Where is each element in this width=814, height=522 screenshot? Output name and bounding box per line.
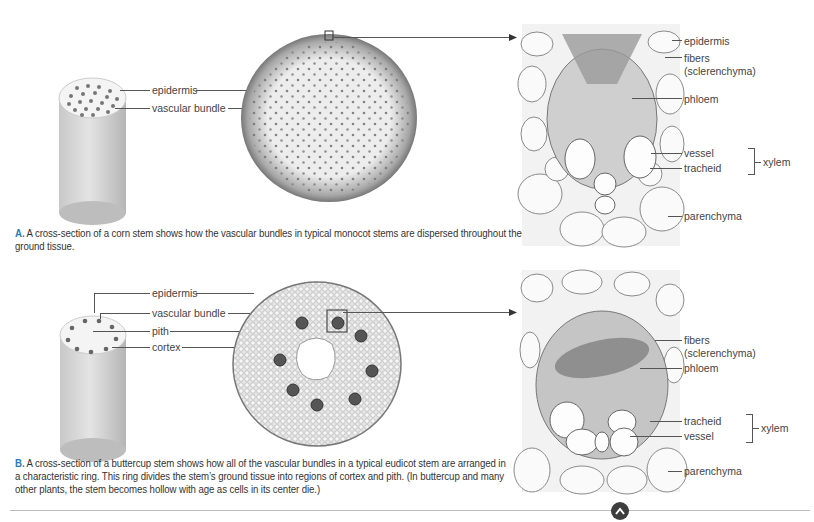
label-parenchyma-b: parenchyma — [684, 465, 742, 477]
caption-b-text: A cross-section of a buttercup stem show… — [15, 457, 506, 495]
label-sclerenchyma-b: (sclerenchyma) — [684, 347, 756, 359]
label-fibers-a: fibers — [684, 52, 710, 64]
label-parenchyma-a: parenchyma — [684, 210, 742, 222]
label-epidermis-detail-a: epidermis — [684, 35, 730, 47]
label-tracheid-a: tracheid — [684, 162, 721, 174]
corn-vascular-bundle-micrograph — [522, 24, 680, 246]
caption-a: A. A cross-section of a corn stem shows … — [15, 227, 530, 253]
label-xylem-b: xylem — [761, 422, 788, 434]
corn-stem-cylinder-illustration — [55, 78, 130, 228]
chevron-up-icon — [615, 507, 625, 515]
buttercup-vascular-bundle-micrograph — [522, 270, 680, 492]
corn-stem-cross-section-image — [240, 33, 420, 203]
label-phloem-b: phloem — [684, 362, 718, 374]
label-cortex-b: cortex — [152, 341, 181, 353]
label-fibers-b: fibers — [684, 334, 710, 346]
buttercup-stem-cylinder-illustration — [58, 315, 128, 465]
label-pith-b: pith — [152, 325, 169, 337]
buttercup-stem-cross-section-image — [232, 280, 402, 448]
label-vascular-bundle-a: vascular bundle — [152, 102, 226, 114]
arrow-icon — [509, 309, 517, 316]
label-vessel-a: vessel — [684, 147, 714, 159]
arrow-icon — [509, 34, 517, 41]
label-epidermis-a: epidermis — [152, 84, 198, 96]
label-vessel-b: vessel — [684, 430, 714, 442]
caption-b: B. A cross-section of a buttercup stem s… — [15, 457, 507, 496]
divider — [10, 510, 810, 511]
label-vascular-bundle-b: vascular bundle — [152, 307, 226, 319]
caption-b-letter: B. — [15, 457, 24, 469]
label-phloem-a: phloem — [684, 93, 718, 105]
caption-a-letter: A. — [15, 227, 24, 239]
label-tracheid-b: tracheid — [684, 415, 721, 427]
label-sclerenchyma-a: (sclerenchyma) — [684, 65, 756, 77]
caption-a-text: A cross-section of a corn stem shows how… — [15, 227, 522, 252]
scroll-to-top-button[interactable] — [611, 502, 629, 520]
label-epidermis-b: epidermis — [152, 287, 198, 299]
label-xylem-a: xylem — [763, 156, 790, 168]
